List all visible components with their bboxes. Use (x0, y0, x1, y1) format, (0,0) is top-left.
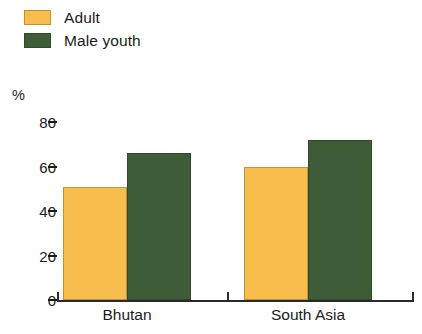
y-tick-mark-60 (48, 166, 57, 168)
bar-bhutan-male-youth (127, 153, 191, 300)
x-axis-tick-end (412, 292, 414, 301)
y-tick-mark-40 (48, 210, 57, 212)
x-axis-label-bhutan: Bhutan (67, 307, 187, 323)
x-axis-tick-start (57, 292, 59, 301)
y-tick-mark-80 (48, 121, 57, 123)
bar-south-asia-adult (244, 167, 308, 301)
y-tick-mark-0 (48, 299, 57, 301)
y-tick-mark-20 (48, 255, 57, 257)
bar-south-asia-male-youth (308, 140, 372, 300)
x-axis-line (57, 300, 414, 302)
y-axis-unit-label: % (12, 88, 25, 103)
x-axis-label-south-asia: South Asia (248, 307, 368, 323)
x-axis-tick-middle (227, 292, 229, 301)
bar-chart: Adult Male youth % 80 60 40 20 0 Bhutan (0, 0, 422, 334)
bar-bhutan-adult (63, 187, 127, 300)
plot-area: % 80 60 40 20 0 Bhutan South Asia (0, 0, 422, 334)
